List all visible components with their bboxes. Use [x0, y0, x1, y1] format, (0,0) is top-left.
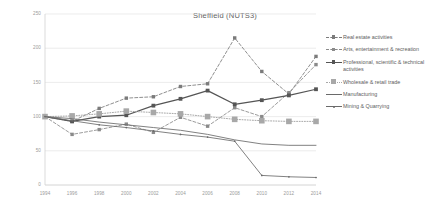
- data-point: [44, 116, 46, 118]
- data-point: [261, 175, 263, 177]
- data-point: [314, 87, 318, 91]
- legend-swatch: [326, 79, 342, 86]
- legend-item-label: Wholesale & retail trade: [342, 79, 427, 86]
- data-point: [70, 133, 73, 136]
- data-point: [153, 130, 155, 132]
- legend-swatch: [326, 59, 342, 66]
- data-point: [98, 124, 100, 126]
- y-tick-label: 100: [19, 114, 41, 119]
- data-point: [232, 117, 238, 123]
- series-line: [45, 38, 316, 121]
- x-tick-label: 1998: [84, 191, 114, 196]
- series-6: [44, 116, 317, 179]
- y-tick-label: 200: [19, 45, 41, 50]
- legend-marker-icon: [332, 48, 335, 51]
- y-tick-label: 50: [19, 148, 41, 153]
- data-point: [288, 176, 290, 178]
- x-tick-label: 2000: [111, 191, 141, 196]
- legend-item-label: Mining & Quarrying: [342, 103, 427, 110]
- legend-item-label: Manufacturing: [342, 91, 427, 98]
- series-line: [45, 117, 316, 178]
- x-tick-label: 2014: [301, 191, 331, 196]
- data-point: [125, 96, 128, 99]
- data-point: [260, 98, 264, 102]
- data-point: [233, 106, 236, 109]
- data-point: [207, 136, 209, 138]
- legend-item[interactable]: Arts, entertainment & recreation: [326, 46, 427, 53]
- legend-item[interactable]: Mining & Quarrying: [326, 103, 427, 110]
- data-point: [205, 114, 211, 120]
- legend-marker-icon: [333, 106, 335, 108]
- legend-item[interactable]: Professional, scientific & technical act…: [326, 59, 427, 74]
- data-point: [152, 104, 156, 108]
- data-point: [287, 93, 291, 97]
- legend-item-label: Professional, scientific & technical act…: [342, 59, 427, 74]
- data-point: [124, 108, 130, 114]
- legend-marker-icon: [332, 35, 335, 38]
- data-point: [314, 63, 317, 66]
- x-tick-label: 2012: [274, 191, 304, 196]
- x-tick-label: 2008: [220, 191, 250, 196]
- data-point: [98, 128, 101, 131]
- data-point: [206, 82, 209, 85]
- data-point: [125, 127, 127, 129]
- data-point: [286, 119, 292, 125]
- data-point: [315, 177, 317, 179]
- data-point: [260, 70, 263, 73]
- legend-swatch: [326, 91, 342, 98]
- chart-container: Sheffield (NUTS3) 050100150200250 199419…: [0, 0, 427, 214]
- data-point: [234, 140, 236, 142]
- legend-swatch: [326, 46, 342, 53]
- data-point: [314, 55, 317, 58]
- data-point: [71, 120, 73, 122]
- data-point: [69, 113, 75, 119]
- y-tick-label: 250: [19, 11, 41, 16]
- data-point: [151, 110, 157, 116]
- data-point: [233, 102, 237, 106]
- data-point: [313, 119, 319, 125]
- data-point: [180, 134, 182, 136]
- data-point: [233, 36, 236, 39]
- data-point: [98, 107, 101, 110]
- data-point: [179, 97, 183, 101]
- legend-item[interactable]: Real estate activities: [326, 34, 427, 41]
- x-tick-label: 1994: [30, 191, 60, 196]
- data-point: [96, 111, 102, 117]
- legend-item[interactable]: Manufacturing: [326, 91, 427, 98]
- y-tick-label: 150: [19, 80, 41, 85]
- legend-item-label: Real estate activities: [342, 34, 427, 41]
- y-tick-label: 0: [19, 182, 41, 187]
- data-point: [152, 95, 155, 98]
- data-point: [259, 118, 265, 124]
- legend-swatch: [326, 34, 342, 41]
- series-1: [43, 36, 317, 123]
- legend-swatch: [326, 103, 342, 110]
- legend-marker-icon: [332, 60, 335, 63]
- legend-marker-icon: [331, 79, 336, 84]
- x-tick-label: 2002: [138, 191, 168, 196]
- data-point: [206, 89, 210, 93]
- data-point: [260, 115, 263, 118]
- legend-line-icon: [326, 94, 342, 95]
- x-tick-label: 2010: [247, 191, 277, 196]
- x-tick-label: 2004: [166, 191, 196, 196]
- legend-item-label: Arts, entertainment & recreation: [342, 46, 427, 53]
- x-tick-label: 2006: [193, 191, 223, 196]
- data-point: [206, 124, 209, 127]
- data-point: [179, 85, 182, 88]
- legend-item[interactable]: Wholesale & retail trade: [326, 79, 427, 86]
- x-tick-label: 1996: [57, 191, 87, 196]
- data-point: [178, 111, 184, 117]
- chart-legend: Real estate activitiesArts, entertainmen…: [326, 34, 427, 116]
